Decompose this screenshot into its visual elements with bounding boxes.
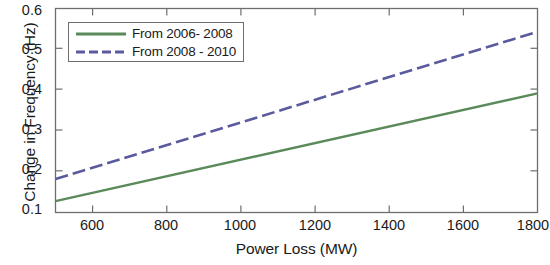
legend-swatch-solid-line xyxy=(75,27,127,41)
chart-figure: Change in Frequency (Hz) Power Loss (MW)… xyxy=(0,0,550,265)
chart-legend: From 2006- 2008 From 2008 - 2010 xyxy=(68,22,244,62)
legend-label: From 2008 - 2010 xyxy=(132,44,236,59)
legend-entry-2008-2010: From 2008 - 2010 xyxy=(69,42,243,61)
legend-entry-2006-2008: From 2006- 2008 xyxy=(69,24,243,43)
series-line-2006-2008 xyxy=(56,93,538,201)
legend-swatch-dashdot-line xyxy=(75,45,127,59)
legend-label: From 2006- 2008 xyxy=(132,26,233,41)
